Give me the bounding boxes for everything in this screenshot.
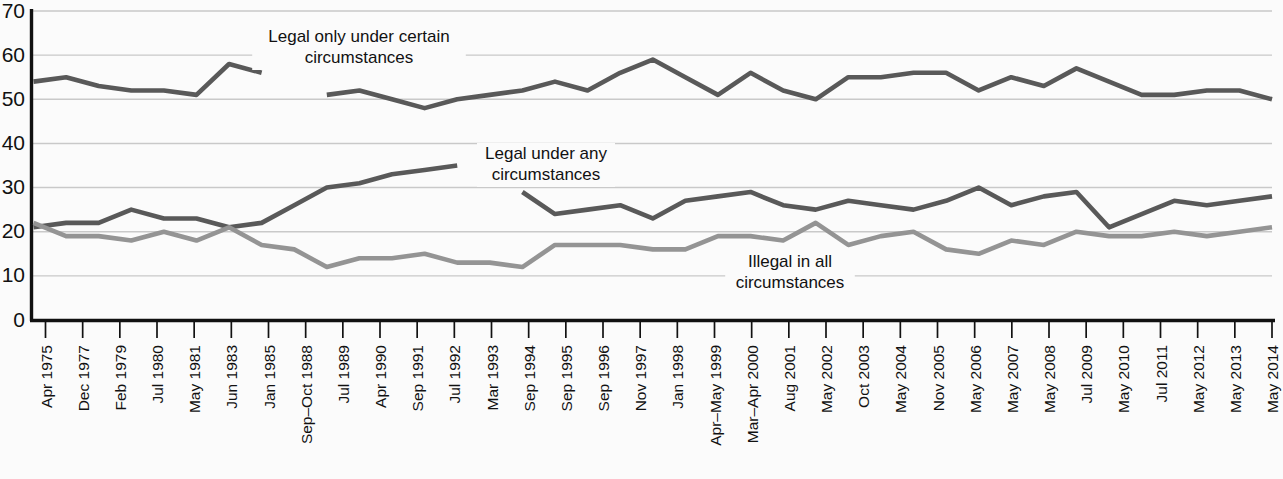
y-tick-label: 20 [2,219,25,242]
y-tick-label: 60 [2,43,25,66]
x-tick-label: Jul 1992 [446,345,463,404]
x-tick-label: Jan 1998 [669,345,686,409]
x-tick-label: Nov 2005 [930,345,947,411]
annotation-legal-certain: circumstances [305,48,414,67]
series-line-0 [34,64,262,95]
x-tick-label: May 2014 [1264,345,1281,413]
y-tick-label: 40 [2,131,25,154]
x-tick-label: Apr 1990 [372,345,389,408]
x-tick-label: May 2013 [1227,345,1244,413]
y-tick-label: 10 [2,263,25,286]
x-tick-label: Sep 1996 [595,345,612,411]
series-annotations-group: Legal only under certaincircumstancesLeg… [252,26,855,295]
data-series-group [34,60,1273,267]
x-tick-label: Mar–Apr 2000 [744,345,761,444]
series-line-1 [522,188,1272,228]
x-tick-label: Jan 1985 [261,345,278,409]
x-tick-label: Apr–May 1999 [707,345,724,446]
x-axis-tick-marks [46,321,1273,338]
line-chart: 010203040506070 Apr 1975Dec 1977Feb 1979… [0,0,1283,479]
x-tick-label: May 2008 [1041,345,1058,413]
x-tick-label: Jul 1980 [149,345,166,404]
x-tick-label: Oct 2003 [855,345,872,408]
x-tick-label: Sep 1995 [558,345,575,411]
x-tick-label: May 2012 [1190,345,1207,413]
annotation-legal-any: circumstances [492,165,601,184]
gridlines-group [32,11,1273,276]
x-tick-label: May 2007 [1004,345,1021,413]
x-tick-label: Sep 1994 [521,345,538,412]
x-tick-label: Jun 1983 [223,345,240,409]
series-line-2 [34,223,1273,267]
series-line-1 [34,166,458,228]
annotation-illegal-all: circumstances [736,273,845,292]
x-tick-label: May 2006 [967,345,984,413]
x-tick-label: May 2002 [818,345,835,413]
y-tick-label: 0 [13,308,25,331]
series-line-0 [327,60,1272,109]
annotation-illegal-all: Illegal in all [748,252,832,271]
x-tick-label: May 2004 [892,345,909,413]
x-tick-label: May 2010 [1115,345,1132,413]
x-tick-label: Dec 1977 [75,345,92,411]
x-tick-label: Jul 1989 [335,345,352,404]
x-tick-label: Nov 1997 [632,345,649,411]
x-tick-label: Jul 2009 [1078,345,1095,404]
chart-container: 010203040506070 Apr 1975Dec 1977Feb 1979… [0,0,1283,479]
x-axis-tick-label-group: Apr 1975Dec 1977Feb 1979Jul 1980May 1981… [38,345,1282,446]
x-tick-label: Apr 1975 [38,345,55,408]
x-tick-label: Feb 1979 [112,345,129,411]
x-tick-label: Jul 2011 [1153,345,1170,402]
annotation-legal-certain: Legal only under certain [268,27,449,46]
y-tick-label: 70 [2,0,25,22]
annotation-legal-any: Legal under any [485,144,607,163]
x-tick-label: Aug 2001 [781,345,798,411]
y-axis-tick-labels: 010203040506070 [2,0,25,331]
y-tick-label: 30 [2,175,25,198]
x-tick-label: Sep–Oct 1988 [298,345,315,444]
x-tick-label: Mar 1993 [484,345,501,410]
x-tick-label: Sep 1991 [409,345,426,411]
x-tick-label: May 1981 [186,345,203,413]
y-tick-label: 50 [2,87,25,110]
